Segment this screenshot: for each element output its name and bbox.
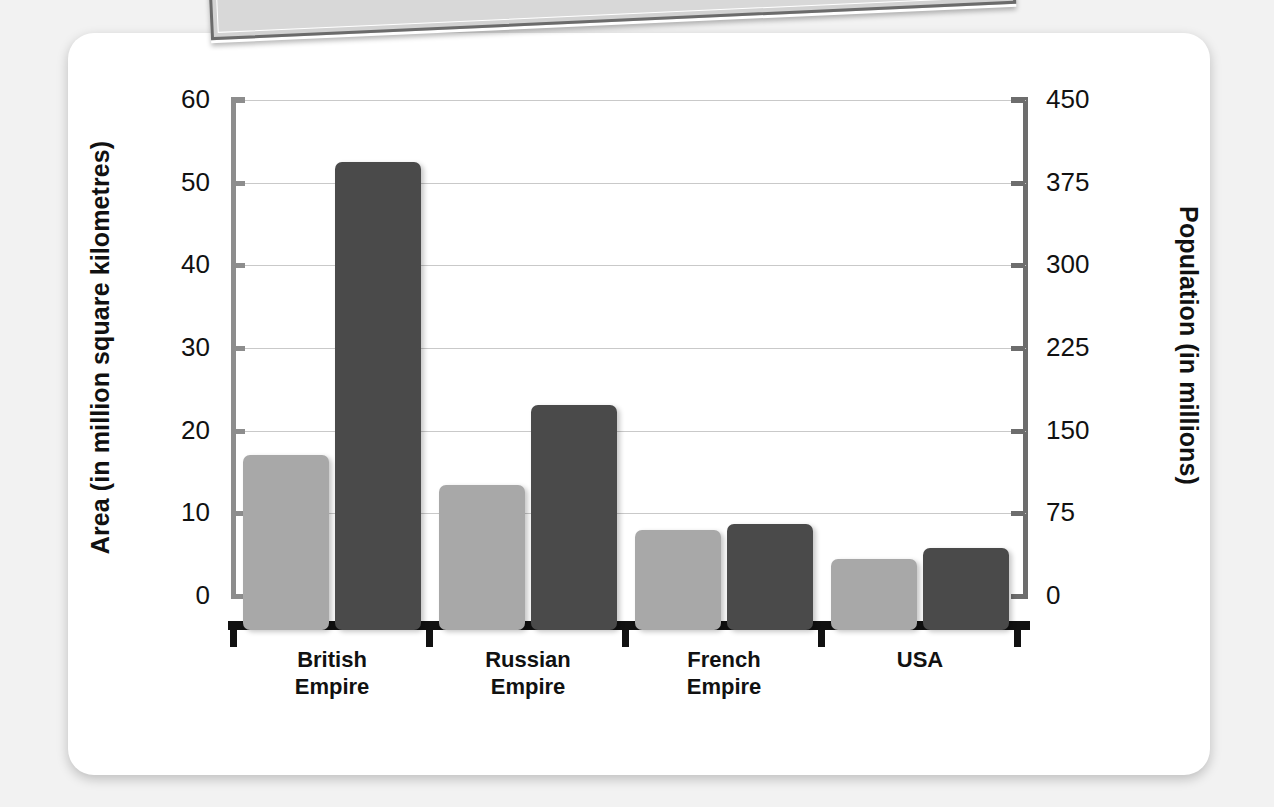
left-axis-tick	[231, 346, 245, 351]
right-axis-title: Population (in millions)	[1174, 96, 1203, 596]
bar-population	[531, 405, 617, 630]
category-label: BritishEmpire	[222, 647, 442, 701]
left-axis-tick	[231, 181, 245, 186]
left-axis-tick-label: 30	[90, 334, 210, 360]
right-axis-tick-label: 225	[1046, 334, 1166, 360]
category-label-line: USA	[810, 647, 1030, 674]
bar-area	[243, 455, 329, 630]
right-axis-tick-label: 150	[1046, 417, 1166, 443]
category-label: FrenchEmpire	[614, 647, 834, 701]
right-axis-tick	[1011, 98, 1025, 103]
right-axis-tick-label: 75	[1046, 499, 1166, 525]
category-label: USA	[810, 647, 1030, 674]
x-axis-tick	[818, 621, 825, 647]
left-axis-tick-label: 10	[90, 499, 210, 525]
right-axis-tick	[1011, 346, 1025, 351]
right-axis-tick	[1011, 429, 1025, 434]
right-axis-tick	[1011, 594, 1025, 599]
bar-area	[439, 485, 525, 630]
right-axis-tick-label: 0	[1046, 582, 1166, 608]
chart-card: Area (in million square kilometres) Popu…	[68, 33, 1210, 775]
bar-population	[335, 162, 421, 630]
right-axis-tick-label: 300	[1046, 251, 1166, 277]
category-label-line: Empire	[418, 674, 638, 701]
left-axis-tick-label: 20	[90, 417, 210, 443]
x-axis-tick	[230, 621, 237, 647]
gridline	[236, 100, 1026, 101]
left-axis-tick-label: 40	[90, 251, 210, 277]
bar-population	[923, 548, 1009, 630]
right-axis-tick	[1011, 263, 1025, 268]
left-axis-tick-label: 0	[90, 582, 210, 608]
category-label: RussianEmpire	[418, 647, 638, 701]
category-label-line: Empire	[222, 674, 442, 701]
left-axis-tick	[231, 263, 245, 268]
bar-area	[635, 530, 721, 630]
decorative-tilted-panel-inner	[213, 0, 1009, 33]
category-label-line: French	[614, 647, 834, 674]
right-axis-tick-label: 375	[1046, 169, 1166, 195]
right-axis-tick	[1011, 181, 1025, 186]
category-label-line: Empire	[614, 674, 834, 701]
left-axis-tick-label: 50	[90, 169, 210, 195]
right-axis-tick-label: 450	[1046, 86, 1166, 112]
left-axis-tick	[231, 429, 245, 434]
x-axis-tick	[1014, 621, 1021, 647]
category-label-line: British	[222, 647, 442, 674]
chart-plot-area: Area (in million square kilometres) Popu…	[68, 33, 1210, 775]
left-axis-tick	[231, 98, 245, 103]
right-axis-tick	[1011, 511, 1025, 516]
x-axis-tick	[622, 621, 629, 647]
bar-population	[727, 524, 813, 630]
category-label-line: Russian	[418, 647, 638, 674]
left-axis-tick-label: 60	[90, 86, 210, 112]
bar-area	[831, 559, 917, 630]
x-axis-tick	[426, 621, 433, 647]
